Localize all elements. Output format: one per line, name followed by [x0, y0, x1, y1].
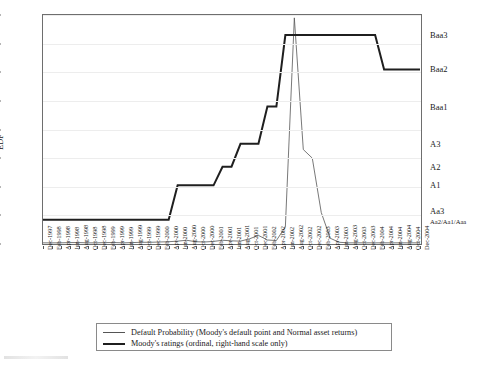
x-axis-tick-mark: [223, 246, 224, 249]
legend-item: Default Probability (Moody's default poi…: [103, 327, 385, 338]
legend-item: Moody's ratings (ordinal, right-hand sca…: [103, 338, 385, 349]
x-axis-tick-label: Dec-2004: [423, 226, 430, 250]
chart-legend: Default Probability (Moody's default poi…: [96, 323, 392, 351]
x-axis-tick-mark: [133, 246, 134, 249]
x-axis-tick-mark: [169, 246, 170, 249]
right-axis-tick-label: A1: [430, 180, 440, 190]
x-axis-tick-mark: [393, 246, 394, 249]
y-axis-tick-mark: [0, 43, 1, 44]
x-axis-tick-mark: [142, 246, 143, 249]
x-axis-tick-mark: [151, 246, 152, 249]
y-axis-tick-mark: [0, 129, 1, 130]
right-axis-tick-label: Baa1: [430, 102, 447, 112]
x-axis-tick-mark: [205, 246, 206, 249]
x-axis-tick-mark: [375, 246, 376, 249]
gridline: [43, 72, 421, 73]
legend-swatch-default-probability: [103, 332, 125, 333]
x-axis-tick-mark: [330, 246, 331, 249]
right-axis: Baa3Baa2Baa1A3A2A1Aa3Aa2/Aa1/Aaa: [424, 0, 492, 260]
plot-area: [42, 14, 422, 245]
x-axis-tick-mark: [52, 246, 53, 249]
right-axis-tick-label: Baa2: [430, 64, 447, 74]
x-axis-tick-mark: [178, 246, 179, 249]
legend-swatch-moodys-ratings: [103, 343, 125, 345]
x-axis-tick-mark: [124, 246, 125, 249]
x-axis-tick-mark: [411, 246, 412, 249]
gridline: [43, 101, 421, 102]
x-axis-tick-mark: [348, 246, 349, 249]
x-axis-tick-mark: [357, 246, 358, 249]
x-axis-tick-mark: [402, 246, 403, 249]
x-axis-tick-mark: [420, 246, 421, 249]
x-axis-tick-mark: [160, 246, 161, 249]
y-axis-tick-mark: [0, 186, 1, 187]
right-axis-tick-label: A3: [430, 139, 440, 149]
x-axis-tick-mark: [70, 246, 71, 249]
x-axis-tick-mark: [276, 246, 277, 249]
x-axis-tick-mark: [321, 246, 322, 249]
legend-label-default-probability: Default Probability (Moody's default poi…: [131, 328, 357, 337]
x-axis-tick-mark: [232, 246, 233, 249]
gridline: [43, 15, 421, 16]
y-axis-tick-mark: [0, 158, 1, 159]
y-axis-tick-mark: [0, 100, 1, 101]
x-axis-tick-mark: [303, 246, 304, 249]
x-axis-tick-mark: [285, 246, 286, 249]
x-axis-tick-mark: [339, 246, 340, 249]
x-axis-tick-mark: [240, 246, 241, 249]
legend-label-moodys-ratings: Moody's ratings (ordinal, right-hand sca…: [131, 339, 288, 348]
x-axis-tick-mark: [249, 246, 250, 249]
x-axis-tick-mark: [115, 246, 116, 249]
right-axis-tick-label: A2: [430, 162, 440, 172]
x-axis-tick-mark: [79, 246, 80, 249]
right-axis-tick-label: Aa3: [430, 206, 444, 216]
x-axis-tick-mark: [187, 246, 188, 249]
y-axis-tick-mark: [0, 215, 1, 216]
y-axis: 0%10%20%30%40%50%60%70%80%: [0, 0, 42, 260]
gridline: [43, 187, 421, 188]
page-scan-artifact: [4, 356, 68, 359]
x-axis-tick-mark: [258, 246, 259, 249]
y-axis-title: EDF: [0, 134, 5, 150]
x-axis-tick-mark: [88, 246, 89, 249]
gridline: [43, 44, 421, 45]
x-axis-tick-mark: [61, 246, 62, 249]
gridline: [43, 215, 421, 216]
y-axis-tick-mark: [0, 72, 1, 73]
gridline: [43, 158, 421, 159]
x-axis-tick-mark: [267, 246, 268, 249]
y-axis-tick-mark: [0, 15, 1, 16]
x-axis-tick-mark: [312, 246, 313, 249]
x-axis-tick-mark: [196, 246, 197, 249]
x-axis-tick-mark: [384, 246, 385, 249]
gridlines: [43, 15, 421, 244]
gridline: [43, 130, 421, 131]
x-axis-tick-mark: [106, 246, 107, 249]
x-axis-tick-mark: [97, 246, 98, 249]
y-axis-tick-mark: [0, 244, 1, 245]
x-axis-tick-mark: [43, 246, 44, 249]
x-axis-tick-mark: [214, 246, 215, 249]
x-axis: Dec-1997Feb-1998Apr-1998Jun-1998Aug-1998…: [42, 246, 422, 314]
chart-figure: 0%10%20%30%40%50%60%70%80% EDF Baa3Baa2B…: [0, 0, 492, 365]
x-axis-tick-mark: [366, 246, 367, 249]
x-axis-tick-mark: [294, 246, 295, 249]
right-axis-tick-label: Baa3: [430, 30, 447, 40]
right-axis-tick-label: Aa2/Aa1/Aaa: [430, 217, 466, 224]
